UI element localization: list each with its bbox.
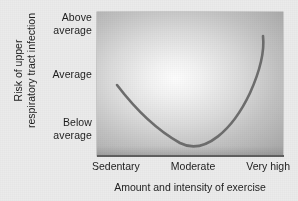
x-axis-tick-labels: Sedentary Moderate Very high bbox=[92, 160, 290, 174]
y-axis-title-line-1: Risk of upper bbox=[12, 3, 25, 139]
y-tick-average: Average bbox=[34, 68, 92, 81]
x-tick-sedentary: Sedentary bbox=[92, 160, 140, 174]
x-axis-line bbox=[97, 155, 284, 157]
y-tick-average-line-1: Average bbox=[34, 68, 92, 81]
y-tick-below-average-line-2: average bbox=[34, 129, 92, 142]
y-axis-tick-labels: Above average Average Below average bbox=[32, 0, 92, 160]
y-tick-below-average: Below average bbox=[34, 116, 92, 141]
plot-area bbox=[97, 12, 283, 156]
y-tick-above-average-line-2: average bbox=[34, 24, 92, 37]
x-axis-title: Amount and intensity of exercise bbox=[97, 181, 283, 193]
risk-curve-svg bbox=[97, 12, 283, 156]
risk-curve-path bbox=[117, 36, 263, 146]
y-tick-below-average-line-1: Below bbox=[34, 116, 92, 129]
exercise-infection-risk-figure: Risk of upper respiratory tract infectio… bbox=[0, 0, 298, 201]
y-tick-above-average-line-1: Above bbox=[34, 11, 92, 24]
x-tick-very-high: Very high bbox=[246, 160, 290, 174]
y-tick-above-average: Above average bbox=[34, 11, 92, 36]
x-tick-moderate: Moderate bbox=[171, 160, 215, 174]
